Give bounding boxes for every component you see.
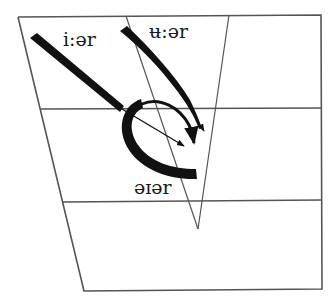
- label-uar: ʉ:ər: [149, 22, 188, 41]
- close-mid-line: [40, 108, 322, 109]
- label-iar: i:ər: [63, 30, 96, 49]
- vowel-chart: i:ər ʉ:ər əɪər: [0, 0, 332, 305]
- label-eiar: əɪər: [134, 178, 172, 197]
- glide-iar: [30, 33, 184, 146]
- open-mid-line: [63, 200, 322, 202]
- glide-eiar: [122, 99, 197, 179]
- vowel-quadrilateral-svg: [0, 0, 332, 305]
